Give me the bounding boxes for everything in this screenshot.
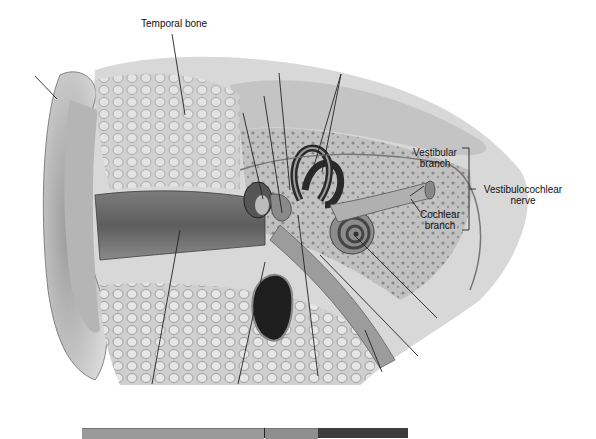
label-vestibular-line2: branch (413, 158, 457, 169)
bottom-bar-segment-3 (318, 428, 408, 438)
label-vestibular-branch: Vestibular branch (413, 147, 457, 169)
label-cochlear-line2: branch (419, 220, 461, 231)
label-nerve-line2: nerve (479, 195, 567, 206)
label-nerve-line1: Vestibulocochlear (479, 184, 567, 195)
label-temporal-bone: Temporal bone (141, 18, 207, 29)
bottom-bar-segment-1 (82, 428, 264, 439)
label-vestibulocochlear-nerve: Vestibulocochlear nerve (479, 184, 567, 206)
label-vestibular-line1: Vestibular (413, 147, 457, 158)
bottom-bar-segment-2 (265, 428, 318, 439)
label-cochlear-line1: Cochlear (419, 209, 461, 220)
dark-cavity (252, 275, 292, 341)
label-cochlear-branch: Cochlear branch (419, 209, 461, 231)
upper-tissue (95, 74, 240, 190)
